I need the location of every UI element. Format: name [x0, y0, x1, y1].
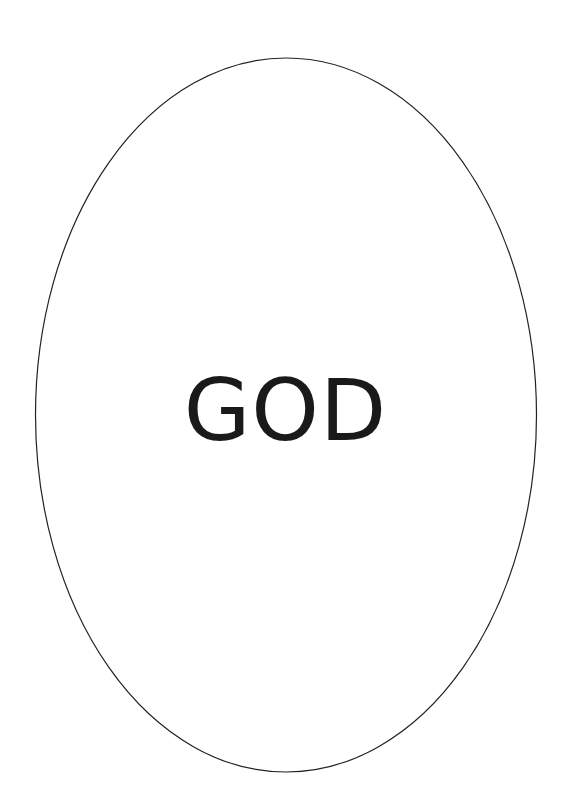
- ellipse-label: GOD: [0, 360, 565, 460]
